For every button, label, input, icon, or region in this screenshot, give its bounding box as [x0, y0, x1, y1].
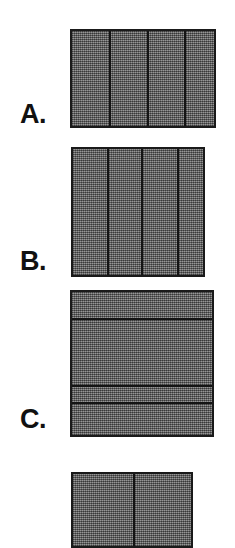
panel-label-b: B. — [20, 248, 46, 275]
specimen-cell — [73, 474, 133, 546]
specimen-cell — [72, 385, 212, 402]
specimen-cell — [72, 318, 212, 385]
specimen-panel-a — [70, 29, 216, 128]
specimen-cell — [72, 292, 212, 318]
specimen-panel-d — [71, 472, 193, 548]
specimen-cell — [177, 149, 205, 275]
specimen-cell — [147, 31, 184, 126]
specimen-panel-c — [70, 290, 214, 437]
specimen-cell — [107, 149, 141, 275]
specimen-cell — [109, 31, 147, 126]
specimen-panel-b — [71, 147, 205, 277]
specimen-cell — [184, 31, 216, 126]
specimen-cell — [141, 149, 177, 275]
specimen-cell — [133, 474, 193, 546]
specimen-cell — [73, 149, 107, 275]
panel-label-c: C. — [20, 406, 46, 433]
figure-plate: A. B. C. — [0, 0, 235, 548]
panel-label-a: A. — [20, 101, 46, 128]
specimen-cell — [72, 402, 212, 437]
specimen-cell — [72, 31, 109, 126]
